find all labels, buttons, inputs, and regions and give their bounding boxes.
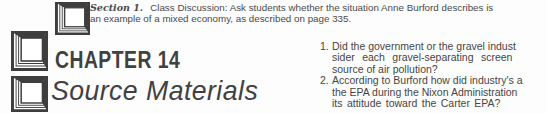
page-background: CHAPTER 14 Source Materials Section 1.Cl… [0,0,547,113]
question-2-line-1: According to Burford how did industry's … [332,75,547,86]
question-2-line-3: its attitude toward the Carter EPA? [332,98,547,109]
question-2-number: 2. [320,75,329,86]
section-label: Section 1. [90,2,143,13]
question-1-number: 1. [320,41,329,52]
intro-paragraph: Section 1.Class Discussion: Ask students… [90,2,493,25]
chapter-title: CHAPTER 14 [55,47,180,74]
question-item-2: 2. According to Burford how did industry… [320,75,547,109]
scanned-document-page: { "colors": { "ink": "#414141", "body_te… [0,0,547,113]
question-item-1: 1. Did the government or the gravel indu… [320,41,547,75]
intro-line-1: Section 1.Class Discussion: Ask students… [90,2,493,13]
nested-squares-icon [11,31,48,71]
question-list: 1. Did the government or the gravel indu… [320,41,547,109]
nested-squares-icon [55,2,90,35]
intro-line-1-text: Class Discussion: Ask students whether t… [150,2,493,13]
intro-line-2: an example of a mixed economy, as descri… [90,13,493,24]
nested-squares-icon [11,76,48,112]
chapter-subtitle: Source Materials [51,75,258,107]
